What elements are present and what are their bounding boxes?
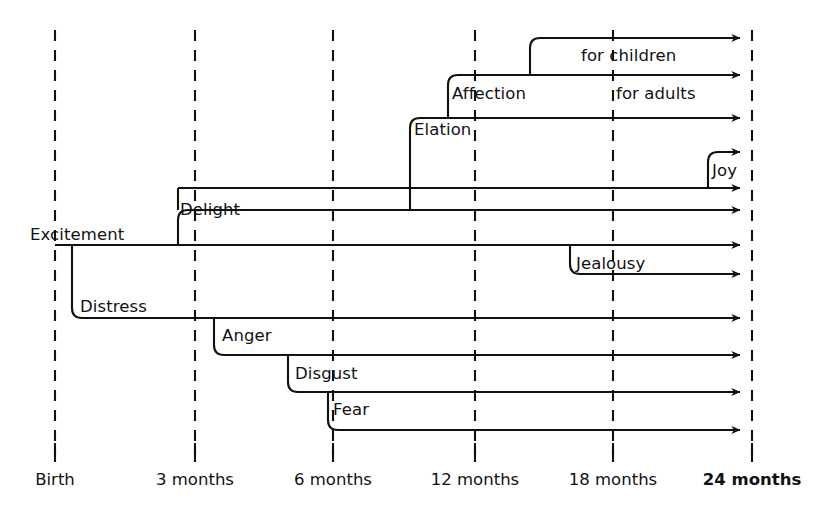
axis-label-birth: Birth [35,472,75,489]
branch-anger [214,318,740,355]
node-label-delight: Delight [180,202,240,219]
node-label-disgust: Disgust [295,366,358,383]
branch-delight [178,210,740,245]
branch-fear [328,392,740,430]
node-label-for-adults: for adults [616,86,696,103]
node-label-distress: Distress [80,299,147,316]
axis-label-18-months: 18 months [569,472,657,489]
axis-label-6-months: 6 months [294,472,372,489]
axis-label-12-months: 12 months [431,472,519,489]
axis-label-24-months: 24 months [703,472,801,489]
node-label-joy: Joy [712,163,737,180]
diagram-canvas: for children Affection for adults Elatio… [0,0,822,526]
node-label-fear: Fear [333,402,369,419]
axis-tick-marks [55,443,752,462]
node-label-jealousy: Jealousy [576,256,645,273]
node-label-excitement: Excitement [30,227,124,244]
node-label-elation: Elation [414,122,471,139]
axis-label-3-months: 3 months [156,472,234,489]
diagram-svg [0,0,822,526]
node-label-affection: Affection [452,86,526,103]
node-label-anger: Anger [222,328,272,345]
node-label-for-children: for children [581,48,676,65]
